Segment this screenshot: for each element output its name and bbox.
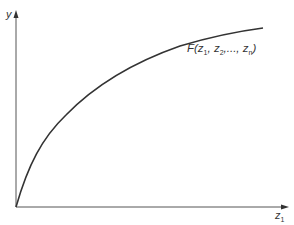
x-axis-label: z1 xyxy=(275,209,284,223)
curve-label-mid1: , z xyxy=(208,42,220,54)
curve-label-end: ) xyxy=(252,42,256,54)
curve-label-func: F(z xyxy=(187,42,204,54)
diagram-canvas xyxy=(0,0,294,225)
curve-label: F(z1, z2,..., zn) xyxy=(187,42,256,56)
y-axis-arrow-icon xyxy=(14,10,19,18)
y-axis-label: y xyxy=(6,8,12,20)
x-axis-label-sub: 1 xyxy=(281,216,285,223)
curve-label-mid2: ,..., z xyxy=(224,42,249,54)
